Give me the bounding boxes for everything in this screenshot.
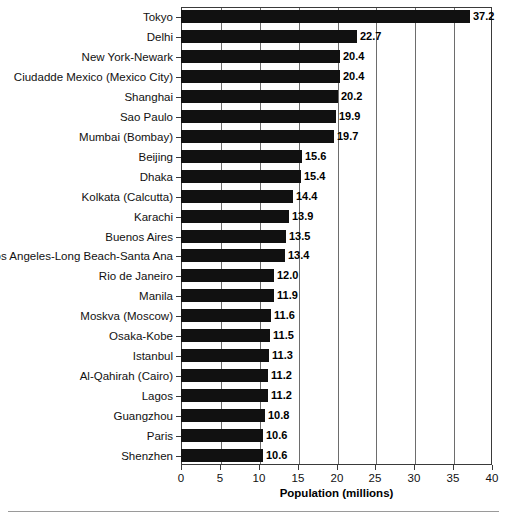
category-label: Los Angeles-Long Beach-Santa Ana (0, 249, 173, 263)
x-tick-label: 25 (355, 471, 395, 485)
bar-value-label: 11.9 (274, 288, 298, 302)
bar (181, 10, 470, 23)
bar-row: 11.2 (181, 389, 492, 402)
x-tick-label: 20 (317, 471, 357, 485)
bar-value-label: 37.2 (470, 9, 494, 23)
bar (181, 429, 263, 442)
category-tick (176, 117, 181, 118)
category-label: Buenos Aires (105, 230, 173, 244)
x-tick-label: 10 (239, 471, 279, 485)
bar-row: 15.4 (181, 170, 492, 183)
bar-row: 13.9 (181, 210, 492, 223)
category-tick (176, 97, 181, 98)
bar-value-label: 13.5 (286, 229, 310, 243)
category-label: Tokyo (143, 10, 173, 24)
bar-row: 14.4 (181, 190, 492, 203)
category-label: Paris (147, 429, 173, 443)
bar (181, 389, 268, 402)
bar-row: 19.7 (181, 130, 492, 143)
bar-value-label: 11.2 (268, 388, 292, 402)
category-label: Dhaka (140, 170, 173, 184)
category-label: Beijing (138, 150, 173, 164)
bar-value-label: 19.9 (336, 109, 360, 123)
bar-row: 11.9 (181, 289, 492, 302)
bar-value-label: 11.6 (271, 308, 295, 322)
category-tick (176, 37, 181, 38)
bottom-divider (8, 511, 499, 512)
category-label: Manila (139, 289, 173, 303)
category-tick (176, 356, 181, 357)
x-tick (453, 465, 454, 470)
bar-row: 20.4 (181, 50, 492, 63)
bar-value-label: 20.4 (340, 49, 364, 63)
bar-value-label: 10.8 (265, 408, 289, 422)
bar-row: 11.6 (181, 309, 492, 322)
category-tick (176, 456, 181, 457)
category-label: Al-Qahirah (Cairo) (80, 369, 173, 383)
bar (181, 269, 274, 282)
bar-value-label: 12.0 (274, 268, 298, 282)
category-tick (176, 137, 181, 138)
bar-value-label: 13.9 (289, 209, 313, 223)
bar-value-label: 11.3 (269, 348, 293, 362)
bar (181, 449, 263, 462)
population-bar-chart: 37.222.720.420.420.219.919.715.615.414.4… (0, 0, 507, 519)
category-tick (176, 217, 181, 218)
x-tick-label: 35 (433, 471, 473, 485)
bar-value-label: 10.6 (263, 448, 287, 462)
category-label: Guangzhou (114, 409, 173, 423)
category-tick (176, 256, 181, 257)
category-label: Osaka-Kobe (109, 329, 173, 343)
bar-value-label: 19.7 (334, 129, 358, 143)
category-label: Ciudadde Mexico (Mexico City) (14, 70, 173, 84)
bar (181, 409, 265, 422)
category-tick (176, 157, 181, 158)
category-label: Mumbai (Bombay) (79, 130, 173, 144)
bar-row: 11.3 (181, 349, 492, 362)
category-tick (176, 276, 181, 277)
bar-row: 12.0 (181, 269, 492, 282)
bar (181, 150, 302, 163)
bar (181, 190, 293, 203)
bar (181, 110, 336, 123)
category-label: Rio de Janeiro (99, 269, 173, 283)
bar (181, 70, 340, 83)
bar-row: 13.5 (181, 230, 492, 243)
x-axis-title: Population (millions) (181, 487, 492, 499)
bar-row: 10.6 (181, 429, 492, 442)
bar-row: 13.4 (181, 249, 492, 262)
bar-value-label: 22.7 (357, 29, 381, 43)
bar-value-label: 15.4 (301, 169, 325, 183)
bar-row: 20.2 (181, 90, 492, 103)
category-tick (176, 177, 181, 178)
category-label: Sao Paulo (120, 110, 173, 124)
bar-value-label: 20.4 (340, 69, 364, 83)
x-tick-label: 15 (278, 471, 318, 485)
category-label: Istanbul (133, 349, 173, 363)
bar-row: 11.2 (181, 369, 492, 382)
category-label: Shanghai (124, 90, 173, 104)
category-label: Lagos (142, 389, 173, 403)
category-tick (176, 77, 181, 78)
bar-value-label: 11.5 (270, 328, 294, 342)
bar-value-label: 11.2 (268, 368, 292, 382)
bar (181, 349, 269, 362)
bar-row: 22.7 (181, 30, 492, 43)
x-tick (181, 465, 182, 470)
x-tick (259, 465, 260, 470)
bar (181, 210, 289, 223)
bar (181, 50, 340, 63)
x-tick-label: 0 (161, 471, 201, 485)
bars-container: 37.222.720.420.420.219.919.715.615.414.4… (181, 7, 492, 465)
category-tick (176, 197, 181, 198)
bar-row: 15.6 (181, 150, 492, 163)
category-tick (176, 237, 181, 238)
x-tick (298, 465, 299, 470)
category-tick (176, 336, 181, 337)
category-label: Moskva (Moscow) (80, 309, 173, 323)
category-tick (176, 17, 181, 18)
bar-value-label: 13.4 (285, 248, 309, 262)
category-tick (176, 57, 181, 58)
bar-row: 20.4 (181, 70, 492, 83)
category-tick (176, 416, 181, 417)
